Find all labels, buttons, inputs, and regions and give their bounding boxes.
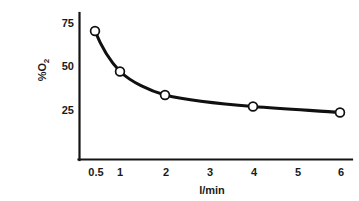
data-curve: [95, 31, 340, 113]
x-tick-label-6: 6: [338, 166, 344, 178]
chart-screenshot: 75 50 25 %O 2 0.5 1 2 3 4 5 6 l/min: [0, 0, 359, 201]
data-point-marker: [161, 91, 170, 100]
x-tick-label-0-5: 0.5: [88, 166, 103, 178]
y-tick-label-25: 25: [62, 104, 74, 116]
line-chart: 75 50 25 %O 2 0.5 1 2 3 4 5 6 l/min: [0, 0, 359, 201]
data-point-marker: [336, 108, 345, 117]
y-axis-title-main: %O: [36, 62, 48, 81]
data-point-marker: [249, 102, 258, 111]
x-tick-label-3: 3: [207, 166, 213, 178]
x-tick-label-1: 1: [117, 166, 123, 178]
x-tick-label-4: 4: [251, 166, 258, 178]
x-tick-label-2: 2: [163, 166, 169, 178]
x-tick-label-5: 5: [295, 166, 301, 178]
data-point-marker: [91, 27, 100, 36]
y-tick-label-50: 50: [62, 60, 74, 72]
y-axis-title: %O 2: [36, 58, 51, 81]
x-axis-title: l/min: [199, 184, 225, 196]
y-tick-label-75: 75: [62, 17, 74, 29]
data-point-marker: [116, 67, 125, 76]
y-axis-title-subscript: 2: [42, 58, 51, 63]
